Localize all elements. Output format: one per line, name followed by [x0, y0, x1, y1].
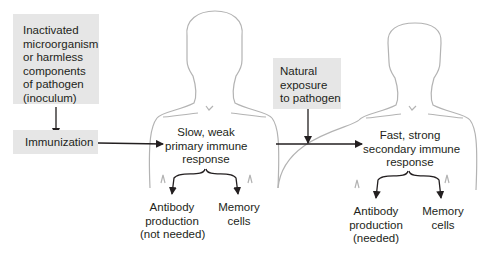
outcome-line: Memory — [212, 201, 266, 215]
outcome-line: production — [140, 215, 204, 229]
secondary-memory-label: Memory cells — [416, 205, 470, 232]
primary-antibody-label: Antibody production (not needed) — [140, 201, 204, 242]
inoculum-line: Inactivated — [23, 24, 99, 38]
inoculum-line: or harmless — [23, 51, 99, 65]
arrow-primary-to-memory — [206, 169, 238, 194]
inoculum-line: of pathogen — [23, 78, 99, 92]
secondary-antibody-label: Antibody production (needed) — [345, 205, 407, 246]
immunization-box: Immunization — [13, 130, 98, 154]
outcome-line: cells — [212, 215, 266, 229]
primary-response-label: Slow, weak primary immune response — [165, 126, 247, 167]
response-line: Slow, weak — [165, 126, 247, 140]
response-line: response — [165, 153, 247, 167]
inoculum-box: Inactivated microorganism or harmless co… — [13, 14, 99, 104]
inoculum-line: (inoculum) — [23, 92, 99, 106]
exposure-line: to pathogen — [280, 92, 341, 106]
secondary-response-label: Fast, strong secondary immune response — [363, 129, 457, 170]
outcome-line: (not needed) — [140, 228, 204, 242]
outcome-line: Antibody — [140, 201, 204, 215]
immunization-label: Immunization — [25, 136, 93, 148]
response-line: secondary immune — [363, 143, 457, 157]
arrow-secondary-to-antibody — [376, 171, 408, 198]
outcome-line: production — [345, 219, 407, 233]
response-line: response — [363, 156, 457, 170]
outcome-line: (needed) — [345, 232, 407, 246]
exposure-line: exposure — [280, 79, 341, 93]
natural-exposure-box: Natural exposure to pathogen — [273, 58, 341, 109]
response-line: primary immune — [165, 140, 247, 154]
response-line: Fast, strong — [363, 129, 457, 143]
primary-memory-label: Memory cells — [212, 201, 266, 228]
arrow-immunization-to-primary — [98, 143, 163, 144]
outcome-line: cells — [416, 219, 470, 233]
inoculum-line: microorganism — [23, 38, 99, 52]
arrow-primary-to-antibody — [172, 169, 205, 194]
inoculum-line: components — [23, 65, 99, 79]
outcome-line: Memory — [416, 205, 470, 219]
arrow-secondary-to-memory — [409, 171, 441, 198]
outcome-line: Antibody — [345, 205, 407, 219]
exposure-line: Natural — [280, 65, 341, 79]
